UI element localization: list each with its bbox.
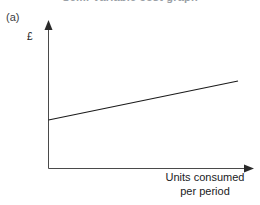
y-axis-arrowhead	[45, 20, 53, 30]
x-axis-label-line2: per period	[150, 184, 260, 198]
x-axis-label-line1: Units consumed	[150, 170, 260, 184]
chart-figure-panel: Semi-variable cost graph (a) £ Units con…	[0, 0, 260, 205]
x-axis-label: Units consumed per period	[150, 170, 260, 198]
cost-line-series	[49, 81, 239, 120]
y-axis	[45, 20, 53, 169]
